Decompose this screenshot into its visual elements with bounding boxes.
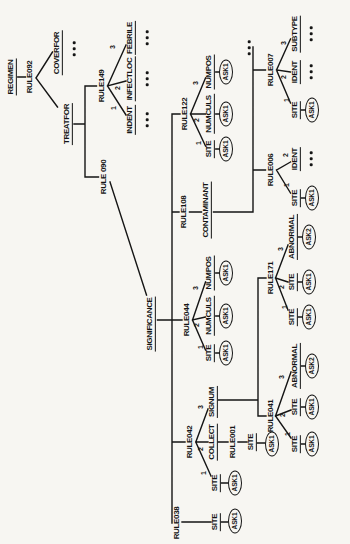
parameter-node-r006-ident: IDENT [291,147,301,171]
branch-number-r044-numpos: 3 [192,286,200,290]
parameter-node-r122-numculs: NUMCULS [205,94,215,134]
parameter-node-r044-numpos: NUMPOS [205,255,215,290]
branch-number-febrile: 3 [109,45,117,49]
branch-number-infectloc: 2 [114,86,122,90]
ask-ellipse-r041-ask2: ASK1 [305,395,319,420]
parameter-node-significance: SIGNIFICANCE [146,296,156,351]
branch-number-r044-site: 1 [197,345,205,349]
ask-ellipse-r006-ask: ASK1 [305,186,319,211]
parameter-node-collect: COLLECT [208,423,218,460]
continuation-dots-coverfor-more [73,42,76,57]
parameter-node-r007-subtype: SUBTYPE [291,15,301,52]
dot [146,37,149,40]
parameter-node-contaminant: CONTAMINANT [202,181,212,238]
branch-number-r041-site2: 2 [279,413,287,417]
rule-node-rule171: RULE171 [267,261,276,296]
rule-node-rule006: RULE006 [267,153,276,188]
dot [146,43,149,46]
branch-number-r171-site1: 1 [281,305,289,309]
parameter-node-r122-site: SITE [205,140,215,158]
ask-ellipse-r171-ask2: ASK1 [302,270,316,295]
branch-number-r044-numculs: 2 [193,323,201,327]
rule-node-rule090: RULE 090 [100,159,109,196]
parameter-node-regimen: REGIMEN [7,59,17,96]
branch-number-r122-numpos: 3 [192,81,200,85]
continuation-dots-r007-more3 [310,27,313,42]
branch-number-r042-site: 1 [200,471,208,475]
dot [248,41,251,44]
dot [73,54,76,57]
dot [146,113,149,116]
rule-node-rule122: RULE122 [181,97,190,132]
rule-node-rule042: RULE042 [186,425,195,460]
ask-ellipse-r122-ask3: ASK1 [219,60,233,85]
parameter-node-coverfor: COVERFOR [53,31,63,76]
rule-node-rule044: RULE044 [183,303,192,338]
parameter-node-infectloc: INFECTLOC [126,57,136,102]
dot [146,72,149,75]
branch-number-r006-site: 1 [283,183,291,187]
dot [310,77,313,80]
ask-ellipse-r044-ask3: ASK1 [219,261,233,286]
continuation-dots-r007-more2 [310,65,313,80]
scanned-figure-page: REGIMENRULE092TREATFORRULE149INDENT1INFE… [0,0,350,544]
dot [73,48,76,51]
ask-ellipse-r171-ask1: ASK1 [302,305,316,330]
parameter-node-r044-site: SITE [205,344,215,362]
ask-ellipse-r001-ask: ASK1 [265,432,279,457]
parameter-node-r042-site: SITE [211,474,221,492]
parameter-node-r044-numculs: NUMCULS [205,296,215,336]
parameter-node-r007-ident: IDENT [291,60,301,84]
dot [310,152,313,155]
ask-ellipse-r044-ask1: ASK1 [219,341,233,366]
parameter-node-signum: SIGNUM [208,386,218,418]
rule-node-rule038: RULE038 [173,506,182,541]
dot [248,53,251,56]
ask-ellipse-r122-ask2: ASK1 [219,102,233,127]
dot [310,27,313,30]
parameter-node-r041-site2: SITE [291,398,301,416]
continuation-dots-febrile-more [146,31,149,46]
ask-ellipse-r044-ask2: ASK1 [219,304,233,329]
rule-node-rule007: RULE007 [267,53,276,88]
branch-number-r122-site: 1 [195,141,203,145]
dot [310,33,313,36]
branch-number-signum: 3 [197,405,205,409]
parameter-node-r007-site: SITE [291,101,301,119]
ask-ellipse-r122-ask1: ASK1 [219,137,233,162]
continuation-dots-infectloc-more [146,72,149,87]
continuation-dots-indent-more [146,113,149,128]
dot [73,42,76,45]
parameter-node-febrile: FEBRILE [126,21,136,55]
parameter-node-r171-site2: SITE [288,273,298,291]
parameter-node-r122-numpos: NUMPOS [205,54,215,89]
dot [310,164,313,167]
rule-node-rule001: RULE001 [229,425,238,460]
ask-ellipse-r041-ask1: ASK1 [305,432,319,457]
dot [310,158,313,161]
dot [310,39,313,42]
rule-node-rule092: RULE092 [26,60,35,95]
rule-tree-diagram: REGIMENRULE092TREATFORRULE149INDENT1INFE… [0,0,350,544]
parameter-node-r041-abnormal: ABNORMAL [291,343,301,389]
branch-number-r006-ident: 2 [282,153,290,157]
branch-number-r041-abnormal: 3 [278,375,286,379]
parameter-node-r038-site: SITE [211,513,221,531]
ask-ellipse-r171-ask3: ASK2 [302,225,316,250]
branch-number-r171-abnormal: 3 [277,247,285,251]
parameter-node-r006-site: SITE [291,189,301,207]
rule-node-rule108: RULE108 [180,195,189,230]
branch-number-indent: 1 [110,106,118,110]
ask-ellipse-r038-ask: ASK1 [228,509,242,534]
branch-number-collect: 2 [197,447,205,451]
branch-number-r171-site2: 2 [278,285,286,289]
rule-node-rule149: RULE149 [98,69,107,104]
parameter-node-r171-site1: SITE [288,308,298,326]
branch-number-r007-ident: 2 [280,75,288,79]
parameter-node-treatfor: TREATFOR [63,103,73,145]
dot [146,119,149,122]
parameter-node-indent: INDENT [126,105,136,135]
dot [248,47,251,50]
dot [146,125,149,128]
branch-number-r041-site1: 1 [284,432,292,436]
